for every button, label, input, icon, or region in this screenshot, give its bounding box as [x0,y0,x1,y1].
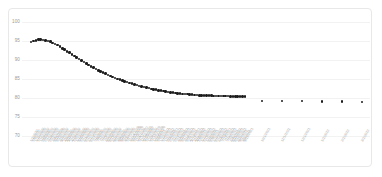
gridline [22,79,370,80]
y-axis-tick-label: 70 [4,134,20,139]
gridline [22,41,370,42]
y-axis-tick-label: 80 [4,96,20,101]
y-axis-tick-label: 95 [4,39,20,44]
data-point [244,95,247,98]
data-point [261,100,263,102]
data-point [341,100,343,102]
data-point [361,101,363,103]
data-point [281,100,283,102]
gridline [22,60,370,61]
gridline [22,98,370,99]
y-axis-tick-label: 85 [4,77,20,82]
data-point [301,100,303,102]
y-axis-tick-label: 75 [4,115,20,120]
scatter-chart: 1009590858075701/1/20201/8/20201/15/2020… [0,0,382,177]
gridline [22,22,370,23]
y-axis-tick-label: 90 [4,58,20,63]
gridline [22,117,370,118]
y-axis-tick-label: 100 [4,20,20,25]
data-point [321,100,323,102]
